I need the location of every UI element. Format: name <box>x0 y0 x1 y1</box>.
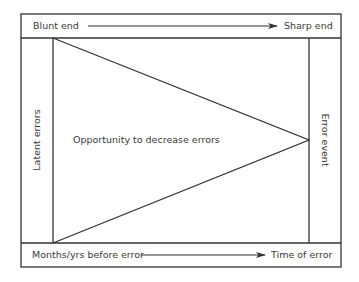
latent-errors-label: Latent errors <box>32 109 42 170</box>
error-event-label: Error event <box>320 113 330 166</box>
blunt-end-label: Blunt end <box>33 21 79 31</box>
months-before-error-label: Months/yrs before error <box>32 250 144 260</box>
opportunity-label: Opportunity to decrease errors <box>73 135 220 145</box>
time-of-error-label: Time of error <box>271 250 332 260</box>
sharp-end-label: Sharp end <box>284 21 333 31</box>
